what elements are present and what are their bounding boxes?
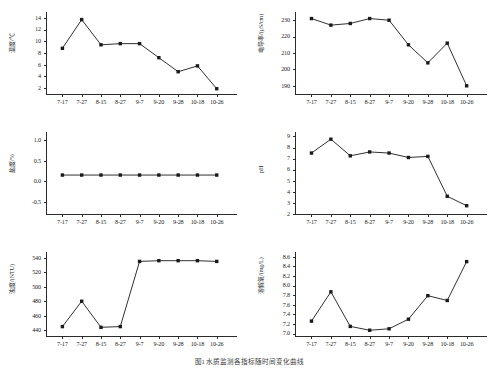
series-turbidity: [0, 240, 249, 362]
chart-grid: 24681012147-177-278-158-279-79-209-2810-…: [0, 0, 499, 362]
figure-caption: 图1 水质监测各指标随时间变化曲线: [0, 358, 499, 366]
water-quality-figure: 24681012147-177-278-158-279-79-209-2810-…: [0, 0, 499, 368]
series-dissolved-oxygen: [249, 240, 499, 362]
plot-area-temperature: 24681012147-177-278-158-279-79-209-2810-…: [0, 0, 249, 120]
plot-area-turbidity: 4404604805005205407-177-278-158-279-79-2…: [0, 240, 249, 362]
plot-area-dissolved-oxygen: 7.07.27.47.67.88.08.28.48.67-177-278-158…: [249, 240, 499, 362]
panel-temperature: 24681012147-177-278-158-279-79-209-2810-…: [0, 0, 249, 120]
panel-conductivity: 1902002102202307-177-278-158-279-79-209-…: [249, 0, 499, 120]
panel-dissolved-oxygen: 7.07.27.47.67.88.08.28.48.67-177-278-158…: [249, 240, 499, 362]
series-conductivity: [249, 0, 499, 120]
plot-area-salinity: -0.50.00.51.07-177-278-158-279-79-209-28…: [0, 120, 249, 240]
panel-salinity: -0.50.00.51.07-177-278-158-279-79-209-28…: [0, 120, 249, 240]
plot-area-conductivity: 1902002102202307-177-278-158-279-79-209-…: [249, 0, 499, 120]
panel-turbidity: 4404604805005205407-177-278-158-279-79-2…: [0, 240, 249, 362]
plot-area-ph: 234567897-177-278-158-279-79-209-2810-18…: [249, 120, 499, 240]
series-ph: [249, 120, 499, 240]
series-temperature: [0, 0, 249, 120]
series-salinity: [0, 120, 249, 240]
panel-ph: 234567897-177-278-158-279-79-209-2810-18…: [249, 120, 499, 240]
